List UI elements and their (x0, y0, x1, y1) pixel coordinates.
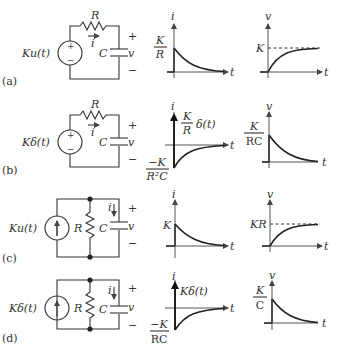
svg-text:R: R (182, 124, 191, 137)
source-label-d: Kδ(t) (8, 302, 37, 315)
capacitor-label-a: C (99, 47, 108, 60)
svg-text:i: i (172, 270, 176, 283)
svg-text:+: + (67, 41, 75, 51)
svg-text:K: K (182, 110, 192, 123)
resistor-b (80, 111, 119, 138)
svg-text:K: K (162, 219, 172, 232)
svg-text:R: R (90, 98, 99, 111)
minus-a: − (128, 64, 137, 77)
capacitor-b (110, 138, 128, 145)
svg-text:t: t (324, 240, 329, 253)
svg-text:−: − (128, 319, 137, 332)
svg-text:R: R (73, 302, 82, 315)
svg-text:−: − (128, 237, 137, 250)
v-plot-a: v t K (255, 10, 329, 79)
svg-text:−: − (67, 144, 75, 154)
svg-text:t: t (230, 240, 235, 253)
node-dot (87, 196, 92, 201)
svg-text:+: + (128, 282, 137, 295)
svg-text:v: v (265, 10, 272, 23)
svg-text:K: K (255, 284, 265, 297)
source-label-b: Kδ(t) (21, 136, 50, 149)
circuit-c: Ku(t) R i C + v − (c) (2, 196, 137, 265)
svg-text:C: C (99, 222, 108, 235)
i-plot-b: i t K R δ(t) −K R²C (145, 100, 235, 183)
svg-text:v: v (128, 301, 135, 314)
svg-text:C: C (256, 299, 264, 312)
svg-text:RC: RC (151, 333, 168, 346)
node-dot (87, 326, 92, 331)
svg-text:i: i (108, 201, 112, 214)
svg-text:R: R (73, 222, 82, 235)
svg-text:K: K (155, 34, 165, 47)
svg-text:K: K (255, 42, 265, 55)
svg-text:KR: KR (249, 218, 267, 231)
svg-text:C: C (99, 303, 108, 316)
capacitor-c (110, 222, 128, 229)
capacitor-a (110, 49, 128, 56)
svg-text:C: C (99, 136, 108, 149)
row-a: + − Ku(t) R i C + v − (a) i t K R (2, 9, 329, 88)
svg-text:R²C: R²C (145, 170, 168, 183)
svg-text:i: i (108, 284, 112, 297)
node-dot (87, 254, 92, 259)
plus-a: + (128, 30, 137, 43)
svg-text:−K: −K (148, 156, 166, 169)
i-plot-c: i t K (162, 188, 235, 258)
svg-text:v: v (266, 100, 273, 113)
row-c: Ku(t) R i C + v − (c) i t K v t (2, 188, 329, 265)
current-label-a: i (91, 37, 95, 50)
circuit-d: Kδ(t) R i C + v − (d) (2, 277, 137, 345)
capacitor-d (110, 306, 128, 313)
svg-text:t: t (230, 139, 235, 152)
i-plot-d: i t Kδ(t) −K RC (150, 270, 235, 346)
svg-text:δ(t): δ(t) (196, 118, 216, 131)
svg-text:v: v (267, 188, 274, 201)
svg-text:v: v (128, 220, 135, 233)
v-plot-d: v t K C (253, 269, 327, 330)
tag-a: (a) (2, 75, 17, 88)
tag-c: (c) (2, 252, 17, 265)
v-plot-b: v t K RC (244, 100, 327, 169)
svg-text:K: K (249, 120, 259, 133)
svg-text:i: i (171, 10, 175, 23)
node-dot (87, 277, 92, 282)
svg-text:v: v (269, 269, 276, 282)
svg-text:+: + (128, 202, 137, 215)
tag-b: (b) (2, 164, 18, 177)
circuit-b: + − Kδ(t) R i C + v − (b) (2, 98, 137, 177)
row-b: + − Kδ(t) R i C + v − (b) i t K R δ(t) −… (2, 98, 327, 183)
svg-text:t: t (322, 317, 327, 330)
tag-d: (d) (2, 332, 18, 345)
svg-text:−: − (67, 55, 75, 65)
resistor-label-a: R (90, 9, 99, 22)
svg-text:+: + (128, 119, 137, 132)
svg-text:t: t (322, 156, 327, 169)
svg-text:−: − (128, 153, 137, 166)
row-d: Kδ(t) R i C + v − (d) i t Kδ(t) −K RC (2, 269, 327, 346)
source-label-a: Ku(t) (21, 47, 50, 60)
svg-text:v: v (128, 136, 135, 149)
resistor-a (80, 22, 119, 49)
svg-text:i: i (91, 126, 95, 139)
svg-text:t: t (324, 66, 329, 79)
svg-text:RC: RC (246, 135, 263, 148)
svg-text:Kδ(t): Kδ(t) (179, 285, 208, 298)
v-plot-c: v t KR (249, 188, 329, 253)
svg-text:i: i (172, 188, 176, 201)
svg-text:−K: −K (150, 318, 168, 331)
svg-text:t: t (230, 302, 235, 315)
svg-text:t: t (230, 66, 235, 79)
resistor-d (86, 280, 94, 329)
svg-text:i: i (171, 100, 175, 113)
i-plot-a: i t K R (154, 10, 235, 79)
source-label-c: Ku(t) (8, 222, 37, 235)
svg-text:R: R (155, 48, 164, 61)
voltage-label-a: v (128, 47, 135, 60)
resistor-c (86, 199, 94, 257)
circuit-a: + − Ku(t) R i C + v − (a) (2, 9, 137, 88)
svg-text:+: + (67, 130, 75, 140)
rc-circuit-figure: + − Ku(t) R i C + v − (a) i t K R (0, 0, 341, 358)
